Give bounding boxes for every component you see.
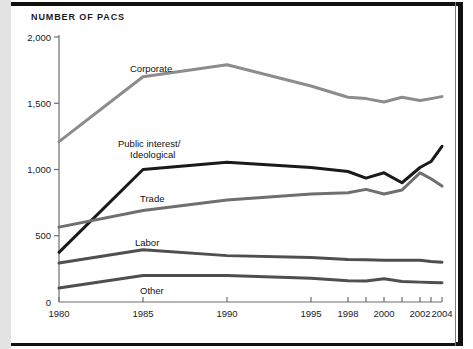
series-label-trade: Trade <box>140 193 164 204</box>
x-tick-label: 1998 <box>337 308 358 319</box>
series-line-other <box>59 276 442 289</box>
x-tick-label: 2000 <box>373 308 394 319</box>
x-axis: 19801985199019951998200020022004 <box>48 297 452 319</box>
line-chart-plot: 05001,0001,5002,000 19801985199019951998… <box>0 0 473 349</box>
x-tick-label: 1980 <box>48 308 69 319</box>
figure-root: NUMBER OF PACS 05001,0001,5002,000 19801… <box>0 0 473 349</box>
series-line-labor <box>59 250 442 263</box>
x-tick-label: 1995 <box>300 308 321 319</box>
x-tick-label: 1985 <box>132 308 153 319</box>
series-line-corporate <box>59 65 442 142</box>
series-label-public-interest-line1: Public interest/ <box>118 138 181 149</box>
series-inline-labels: CorporatePublic interest/IdeologicalTrad… <box>118 63 181 296</box>
series-line-trade <box>59 173 442 227</box>
x-tick-label: 1990 <box>216 308 237 319</box>
x-tick-label: 2002 <box>409 308 430 319</box>
series-label-corporate: Corporate <box>130 63 172 74</box>
series-label-other: Other <box>140 285 164 296</box>
y-tick-label: 500 <box>35 230 51 241</box>
y-tick-label: 1,500 <box>27 98 51 109</box>
series-lines <box>59 65 442 288</box>
x-tick-label: 2004 <box>431 308 452 319</box>
series-label-labor: Labor <box>135 237 159 248</box>
y-tick-label: 2,000 <box>27 32 51 43</box>
y-tick-label: 1,000 <box>27 164 51 175</box>
series-label-public-interest-line2: Ideological <box>130 149 175 160</box>
y-axis: 05001,0001,5002,000 <box>27 32 59 308</box>
y-tick-label: 0 <box>46 297 51 308</box>
